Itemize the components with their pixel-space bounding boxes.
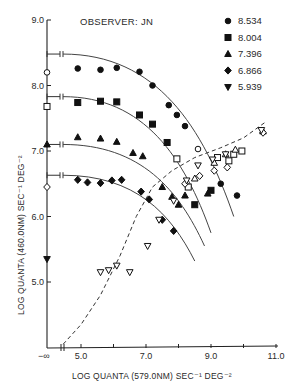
- data-point-triangle-down: [195, 163, 202, 169]
- legend-marker-triangle-down: [225, 85, 232, 91]
- legend-label: 5.939: [238, 81, 262, 92]
- y-tick-label: 7.0: [31, 146, 44, 156]
- data-point-triangle-down: [170, 198, 177, 204]
- data-point-square: [137, 112, 143, 118]
- data-point-circle: [174, 112, 180, 118]
- data-point-triangle-up: [130, 149, 137, 155]
- y-tick-label: 5.0: [31, 277, 44, 287]
- data-point-square: [192, 202, 198, 208]
- legend-marker-diamond: [225, 67, 232, 74]
- data-point-circle: [195, 146, 201, 152]
- data-point-diamond: [138, 188, 145, 195]
- data-point-circle: [150, 83, 156, 89]
- data-point-circle: [166, 102, 172, 108]
- axis-marker-triangle-down: [44, 257, 51, 263]
- axis-marker-circle: [44, 70, 50, 76]
- data-point-diamond: [170, 227, 177, 234]
- x-tick-label: 9.0: [205, 351, 218, 361]
- legend-label: 8.534: [238, 15, 262, 26]
- data-point-triangle-up: [182, 192, 189, 198]
- data-point-square: [114, 99, 120, 105]
- axis-marker-square: [44, 103, 50, 109]
- y-axis-label: LOG QUANTA (460.0NM) SEC⁻¹ DEG⁻²: [16, 155, 26, 315]
- chart-title: OBSERVER: JN: [80, 16, 153, 27]
- data-point-triangle-up: [139, 153, 146, 159]
- data-point-circle: [218, 181, 224, 187]
- fitted-curve: [63, 175, 195, 261]
- data-point-square: [75, 100, 81, 106]
- chart: 5.06.07.08.09.0 5.07.09.011.0 OBSERVER: …: [0, 0, 292, 387]
- data-point-circle: [98, 67, 104, 73]
- data-point-circle: [182, 123, 188, 129]
- legend-marker-square: [225, 35, 231, 41]
- y-tick-label: 6.0: [31, 212, 44, 222]
- data-point-diamond: [118, 176, 125, 183]
- data-point-circle: [137, 69, 143, 75]
- data-point-triangle-up: [232, 146, 239, 152]
- y-tick-label: 8.0: [31, 81, 44, 91]
- data-points: [74, 65, 266, 276]
- data-point-diamond: [97, 179, 104, 186]
- data-point-triangle-down: [126, 270, 133, 276]
- data-point-triangle-down: [144, 243, 151, 249]
- data-point-circle: [114, 65, 120, 71]
- legend-marker-triangle-up: [225, 51, 232, 57]
- y-tick-label: 9.0: [31, 15, 44, 25]
- axis-marker-diamond: [44, 183, 51, 190]
- data-point-circle: [234, 193, 240, 199]
- x-tick-label: 7.0: [140, 351, 153, 361]
- data-point-square: [226, 158, 232, 164]
- x-tick-label: 11.0: [268, 351, 285, 361]
- x-tick-label: 5.0: [75, 351, 88, 361]
- data-point-square: [174, 156, 180, 162]
- data-point-diamond: [196, 172, 203, 179]
- legend-label: 6.866: [238, 65, 262, 76]
- data-point-triangle-down: [105, 268, 112, 274]
- y-ticks: 5.06.07.08.09.0: [31, 15, 51, 287]
- x-axis-label: LOG QUANTA (579.0NM) SEC⁻¹ DEG⁻²: [72, 371, 232, 381]
- data-point-circle: [75, 66, 81, 72]
- data-point-diamond: [224, 164, 231, 171]
- data-point-diamond: [74, 176, 81, 183]
- data-point-triangle-up: [113, 138, 120, 144]
- data-point-square: [239, 148, 245, 154]
- data-point-square: [150, 121, 156, 127]
- legend-label: 7.396: [238, 48, 262, 59]
- data-point-triangle-up: [97, 135, 104, 141]
- x-origin-label: −∞: [38, 351, 50, 361]
- legend-label: 8.004: [238, 32, 262, 43]
- data-point-square: [164, 139, 170, 145]
- data-point-diamond: [84, 179, 91, 186]
- data-point-triangle-up: [74, 134, 81, 140]
- data-point-square: [98, 98, 104, 104]
- data-point-triangle-down: [97, 270, 104, 276]
- legend: 8.5348.0047.3966.8665.939: [225, 15, 262, 92]
- legend-marker-circle: [225, 18, 231, 24]
